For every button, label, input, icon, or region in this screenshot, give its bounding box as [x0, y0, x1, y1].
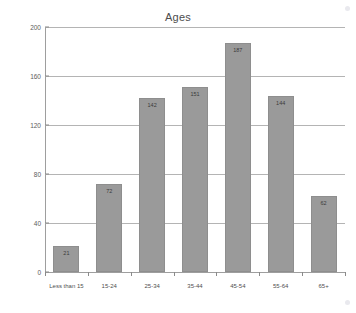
- x-tick-mark: [45, 272, 46, 276]
- bar-value-label: 21: [54, 250, 78, 256]
- bar: 72: [96, 184, 122, 272]
- x-tick-label: Less than 15: [49, 283, 83, 289]
- bar: 142: [139, 98, 165, 272]
- gridline: [45, 27, 345, 28]
- corner-marker-bottom-right: [345, 300, 350, 305]
- gridline: [45, 76, 345, 77]
- x-tick-mark: [216, 272, 217, 276]
- x-tick-mark: [131, 272, 132, 276]
- y-tick-mark: [45, 174, 49, 175]
- x-tick-mark: [259, 272, 260, 276]
- bar: 21: [53, 246, 79, 272]
- x-tick-mark: [345, 272, 346, 276]
- x-tick-label: 25-34: [144, 283, 159, 289]
- bar: 144: [268, 96, 294, 272]
- bar: 187: [225, 43, 251, 272]
- y-tick-label: 160: [13, 73, 41, 80]
- x-axis-line: [45, 272, 346, 273]
- bar-value-label: 72: [97, 188, 121, 194]
- y-tick-label: 200: [13, 24, 41, 31]
- y-tick-mark: [45, 76, 49, 77]
- y-tick-label: 80: [13, 171, 41, 178]
- bar-value-label: 187: [226, 47, 250, 53]
- x-tick-mark: [88, 272, 89, 276]
- bar-chart: Ages 217214215118714462 04080120160200 L…: [0, 0, 356, 313]
- x-tick-label: 15-24: [102, 283, 117, 289]
- chart-title: Ages: [0, 11, 356, 23]
- x-tick-label: 65+: [318, 283, 328, 289]
- bar: 62: [311, 196, 337, 272]
- bar-value-label: 144: [269, 100, 293, 106]
- plot-area: 217214215118714462: [45, 27, 345, 272]
- x-tick-label: 55-64: [273, 283, 288, 289]
- x-tick-label: 45-54: [230, 283, 245, 289]
- bar-value-label: 142: [140, 102, 164, 108]
- corner-marker-top-right: [345, 6, 350, 11]
- y-tick-label: 40: [13, 220, 41, 227]
- y-tick-label: 120: [13, 122, 41, 129]
- x-tick-mark: [302, 272, 303, 276]
- bar-value-label: 151: [183, 91, 207, 97]
- y-tick-mark: [45, 223, 49, 224]
- x-tick-mark: [174, 272, 175, 276]
- y-tick-label: 0: [13, 269, 41, 276]
- x-tick-label: 35-44: [187, 283, 202, 289]
- y-tick-mark: [45, 27, 49, 28]
- bar-value-label: 62: [312, 200, 336, 206]
- bar: 151: [182, 87, 208, 272]
- y-tick-mark: [45, 125, 49, 126]
